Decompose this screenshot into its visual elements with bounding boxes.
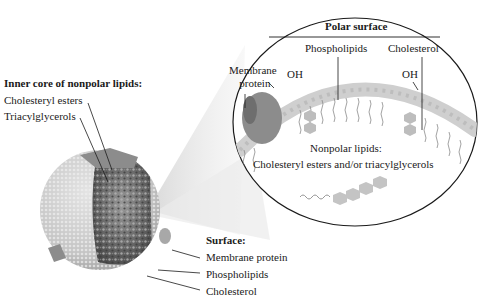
surface-heading: Surface:: [206, 234, 246, 247]
membrane-protein-label-line2: protein: [235, 77, 270, 89]
polar-surface-heading: Polar surface: [325, 20, 387, 33]
inner-core-item-cholesteryl-esters: Cholesteryl esters: [4, 94, 83, 107]
surface-item-cholesterol: Cholesterol: [206, 285, 257, 298]
nonpolar-lipids-description: Cholesteryl esters and/or triacylglycero…: [253, 158, 434, 171]
oh-label-left: OH: [287, 68, 303, 81]
oh-label-right: OH: [402, 68, 418, 81]
nonpolar-lipids-heading: Nonpolar lipids:: [310, 142, 382, 155]
inner-core-heading: Inner core of nonpolar lipids:: [4, 77, 142, 90]
membrane-protein-label-line1: Membrane: [229, 64, 277, 76]
membrane-protein-right: [159, 228, 171, 244]
cholesterol-label: Cholesterol: [388, 42, 439, 55]
inner-core-item-triacylglycerols: Triacylglycerols: [4, 110, 76, 123]
surface-leaders: [147, 250, 200, 290]
phospholipids-label: Phospholipids: [305, 42, 367, 55]
lipoprotein-sphere: [40, 148, 171, 270]
surface-item-phospholipids: Phospholipids: [206, 268, 268, 281]
surface-item-membrane-protein: Membrane protein: [206, 251, 288, 264]
membrane-protein-label: Membrane protein: [229, 64, 277, 90]
